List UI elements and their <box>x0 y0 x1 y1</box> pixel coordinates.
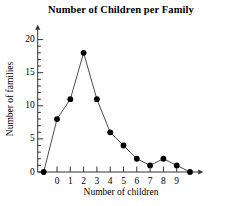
data-point-marker <box>174 162 180 168</box>
data-point-marker <box>134 156 140 162</box>
data-point-markers <box>41 50 193 175</box>
y-axis-tick-label: 10 <box>17 100 35 110</box>
ticks-layer <box>38 40 177 172</box>
data-line <box>44 53 190 172</box>
data-point-marker <box>161 156 167 162</box>
x-axis-arrow <box>198 169 203 174</box>
data-point-marker <box>187 169 193 175</box>
x-axis-tick-label: 4 <box>104 176 116 186</box>
y-axis-tick-label: 20 <box>17 34 35 44</box>
y-axis-tick-label: 0 <box>17 167 35 177</box>
y-axis-tick-label: 15 <box>17 67 35 77</box>
data-point-marker <box>107 129 113 135</box>
x-axis-tick-label: 7 <box>144 176 156 186</box>
data-series-line <box>44 53 190 172</box>
chart-figure: Number of Children per Family Number of … <box>0 0 242 206</box>
data-point-marker <box>81 50 87 56</box>
x-axis-tick-label: 1 <box>64 176 76 186</box>
x-axis-tick-label: 5 <box>118 176 130 186</box>
x-axis-tick-label: 6 <box>131 176 143 186</box>
y-axis-arrow <box>35 25 40 30</box>
x-axis-tick-label: 8 <box>157 176 169 186</box>
data-point-marker <box>67 96 73 102</box>
data-point-marker <box>41 169 47 175</box>
x-axis-tick-label: 2 <box>78 176 90 186</box>
x-axis-tick-label: 0 <box>51 176 63 186</box>
x-axis-tick-label: 3 <box>91 176 103 186</box>
x-axis-tick-label: 9 <box>171 176 183 186</box>
data-point-marker <box>147 162 153 168</box>
data-point-marker <box>121 143 127 149</box>
data-point-marker <box>54 116 60 122</box>
y-axis-tick-label: 5 <box>17 133 35 143</box>
axes-layer <box>35 25 203 175</box>
data-point-marker <box>94 96 100 102</box>
